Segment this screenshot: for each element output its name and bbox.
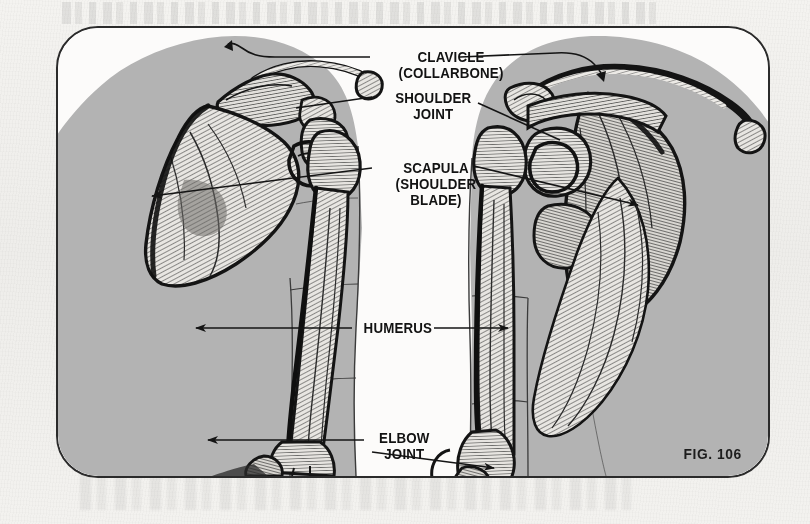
label-clavicle: CLAVICLE (COLLARBONE) (399, 49, 504, 81)
label-humerus-line1: HUMERUS (364, 320, 433, 336)
label-elbow-joint: ELBOW JOINT (379, 430, 429, 462)
figure-page: FIG. 106 (0, 0, 810, 524)
label-scapula-line1: SCAPULA (396, 160, 477, 176)
label-shoulder-joint-line1: SHOULDER (395, 90, 471, 106)
label-clavicle-line1: CLAVICLE (399, 49, 504, 65)
label-scapula-line2: (SHOULDER (396, 176, 477, 192)
label-elbow-joint-line1: ELBOW (379, 430, 429, 446)
show-through-text-top (62, 2, 662, 24)
label-shoulder-joint-line2: JOINT (395, 106, 471, 122)
label-humerus: HUMERUS (364, 320, 433, 336)
label-scapula-line3: BLADE) (396, 192, 477, 208)
figure-caption: FIG. 106 (683, 445, 741, 462)
label-elbow-joint-line2: JOINT (379, 446, 429, 462)
label-clavicle-line2: (COLLARBONE) (399, 65, 504, 81)
label-scapula: SCAPULA (SHOULDER BLADE) (396, 160, 477, 208)
label-shoulder-joint: SHOULDER JOINT (395, 90, 471, 122)
